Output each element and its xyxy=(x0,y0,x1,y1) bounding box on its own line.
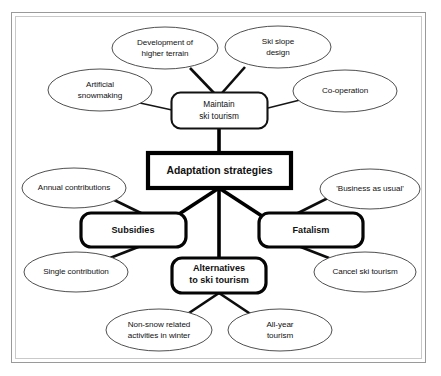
concept-map-diagram: Development of higher terrain Ski slope … xyxy=(0,0,441,376)
leaf-node-non-snow-related-activities-in-winter[interactable]: Non-snow related activities in winter xyxy=(106,309,212,351)
branch-label-line1: Alternatives xyxy=(193,263,245,273)
leaf-node-all-year-tourism[interactable]: All-year tourism xyxy=(228,309,332,351)
leaf-label-line2: tourism xyxy=(267,331,293,340)
leaf-label-line1: Co-operation xyxy=(322,86,368,95)
leaf-node-annual-contributions[interactable]: Annual contributions xyxy=(22,168,126,208)
leaf-label-line1: Single contribution xyxy=(43,267,109,276)
branch-label-line1: Maintain xyxy=(203,99,235,109)
leaf-label-line1: Artificial xyxy=(86,80,114,89)
center-node-adaptation-strategies[interactable]: Adaptation strategies xyxy=(148,153,291,188)
connector-snowmaking-to-maintain xyxy=(140,103,172,110)
ellipse-shape xyxy=(228,309,332,351)
leaf-node-business-as-usual[interactable]: 'Business as usual' xyxy=(320,169,420,209)
leaf-label-line2: higher terrain xyxy=(142,49,189,58)
leaf-node-development-of-higher-terrain[interactable]: Development of higher terrain xyxy=(112,27,218,69)
connector-cooperation-to-maintain xyxy=(268,100,300,108)
leaf-label-line1: Non-snow related xyxy=(128,320,191,329)
ellipse-shape xyxy=(48,69,152,111)
leaf-label-line1: Cancel ski tourism xyxy=(332,267,398,276)
ellipse-shape xyxy=(112,27,218,69)
branch-node-fatalism[interactable]: Fatalism xyxy=(259,213,363,247)
ellipse-shape xyxy=(225,26,331,68)
connector-allyear-to-alternatives xyxy=(219,293,252,315)
branch-node-subsidies[interactable]: Subsidies xyxy=(81,213,186,247)
leaf-node-single-contribution[interactable]: Single contribution xyxy=(24,252,128,292)
branch-label-line1: Fatalism xyxy=(293,225,330,235)
branch-label-line1: Subsidies xyxy=(112,225,155,235)
center-label: Adaptation strategies xyxy=(166,165,272,176)
leaf-node-cancel-ski-tourism[interactable]: Cancel ski tourism xyxy=(314,252,416,292)
branch-label-line2: to ski tourism xyxy=(189,275,249,285)
leaf-label-line1: All-year xyxy=(266,320,293,329)
leaf-label-line1: Development of xyxy=(137,38,194,47)
connector-center-to-fatalism xyxy=(219,188,265,218)
ellipse-shape xyxy=(106,309,212,351)
branch-label-line2: ski tourism xyxy=(199,111,239,121)
connector-nonsnow-to-alternatives xyxy=(186,293,219,315)
leaf-label-line1: Ski slope xyxy=(262,37,295,46)
connector-development-to-maintain xyxy=(190,68,214,93)
leaf-label-line2: snowmaking xyxy=(78,91,123,100)
leaf-label-line1: 'Business as usual' xyxy=(336,184,404,193)
leaf-node-ski-slope-design[interactable]: Ski slope design xyxy=(225,26,331,68)
branch-node-maintain-ski-tourism[interactable]: Maintain ski tourism xyxy=(172,93,268,129)
leaf-node-artificial-snowmaking[interactable]: Artificial snowmaking xyxy=(48,69,152,111)
leaf-label-line2: activities in winter xyxy=(128,331,191,340)
branch-node-alternatives-to-ski-tourism[interactable]: Alternatives to ski tourism xyxy=(172,258,266,293)
leaf-label-line2: design xyxy=(266,48,290,57)
connector-skislope-to-maintain xyxy=(222,67,245,93)
leaf-node-co-operation[interactable]: Co-operation xyxy=(293,70,397,112)
leaf-label-line1: Annual contributions xyxy=(38,183,110,192)
